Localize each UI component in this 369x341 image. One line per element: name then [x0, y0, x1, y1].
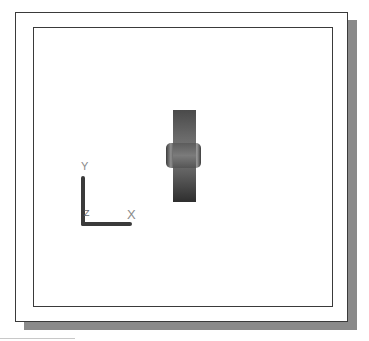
part-hub-center: [173, 143, 196, 168]
ucs-x-label: X: [127, 208, 136, 221]
ucs-x-axis: [81, 222, 132, 226]
divider-line: [0, 338, 75, 339]
ucs-z-label: Z: [84, 209, 90, 218]
ucs-y-axis: [81, 176, 85, 226]
ucs-y-label: Y: [81, 161, 88, 172]
